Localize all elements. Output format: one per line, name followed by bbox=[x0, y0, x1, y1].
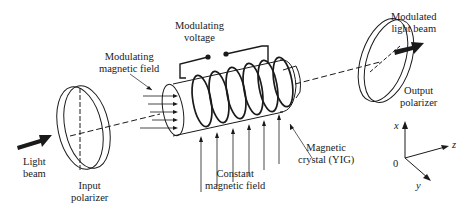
light-beam-arrow-icon bbox=[17, 135, 52, 150]
label-constant-magnetic-field: Constant magnetic field bbox=[205, 168, 265, 192]
optical-axis-exit bbox=[295, 62, 380, 84]
label-line: beam bbox=[23, 168, 46, 180]
label-modulating-voltage: Modulating voltage bbox=[175, 20, 224, 44]
coordinate-axes bbox=[405, 125, 445, 178]
label-line: Modulating bbox=[99, 51, 159, 63]
label-line: Modulating bbox=[175, 20, 224, 32]
input-polarizer bbox=[50, 81, 118, 173]
label-line: polarizer bbox=[400, 97, 437, 109]
modulated-beam-arrow-icon bbox=[394, 42, 424, 55]
label-line: Constant bbox=[205, 168, 265, 180]
axis-z-arrowhead bbox=[441, 145, 449, 150]
axis-x-arrowhead bbox=[402, 121, 408, 129]
label-magnetic-crystal: Magnetic crystal (YIG) bbox=[298, 142, 354, 166]
label-input-polarizer: Input polarizer bbox=[71, 180, 108, 204]
axis-z-label: z bbox=[452, 139, 456, 150]
label-line: Light bbox=[23, 156, 46, 168]
label-line: Magnetic bbox=[298, 142, 354, 154]
axis-y-label: y bbox=[416, 180, 421, 191]
label-line: light beam bbox=[391, 23, 437, 35]
axis-origin-label: 0 bbox=[393, 158, 398, 169]
voltage-terminal-right bbox=[223, 51, 228, 56]
label-modulating-magnetic-field: Modulating magnetic field bbox=[99, 51, 159, 75]
label-line: voltage bbox=[175, 32, 224, 44]
label-line: magnetic field bbox=[99, 63, 159, 75]
label-line: magnetic field bbox=[205, 180, 265, 192]
label-line: Output bbox=[400, 85, 437, 97]
optical-axis bbox=[70, 114, 160, 136]
label-line: Modulated bbox=[391, 11, 437, 23]
label-line: Input bbox=[71, 180, 108, 192]
voltage-terminal-left bbox=[205, 54, 210, 59]
axis-x-label: x bbox=[394, 120, 399, 131]
label-line: crystal (YIG) bbox=[298, 154, 354, 166]
label-light-beam: Light beam bbox=[23, 156, 46, 180]
modulating-field-arrows bbox=[140, 96, 176, 128]
label-output-polarizer: Output polarizer bbox=[400, 85, 437, 109]
label-modulated-light-beam: Modulated light beam bbox=[391, 11, 437, 35]
label-line: polarizer bbox=[71, 192, 108, 204]
